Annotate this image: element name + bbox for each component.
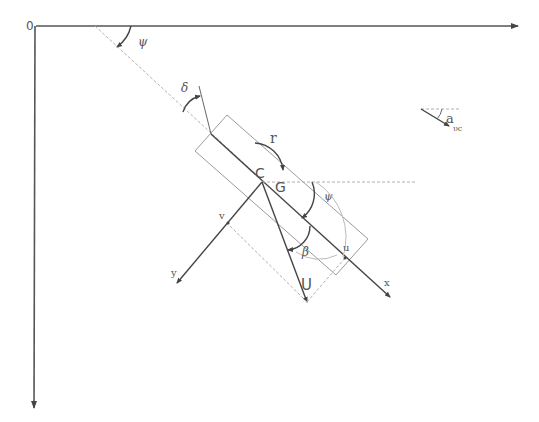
v-projection-line [228,224,307,302]
heading-angle-arc-local [302,182,314,218]
surge-velocity-label: u [343,242,350,253]
ship-kinematics-diagram: 0 ψ δ x r C G ψ y v U u β a υc [0,0,539,422]
current-velocity-vector [421,109,449,126]
u-projection-line [307,258,345,302]
total-velocity-label: U [301,276,312,294]
rudder-angle-label: δ [181,81,188,95]
rudder-line [199,86,211,134]
heading-angle-arc-top [117,26,131,47]
yaw-rate-label: r [270,130,277,146]
current-velocity-label: υc [453,124,463,133]
body-x-axis [211,134,390,297]
earth-y-axis [34,26,35,408]
body-x-axis-label: x [384,277,390,288]
current-angle-arc [437,109,442,119]
drift-angle-label: β [301,245,309,259]
body-y-axis [177,182,262,283]
sway-velocity-label: v [218,210,225,221]
gravity-center-label: G [275,179,286,195]
rudder-angle-arc [183,96,200,112]
center-point-label: C [255,165,265,181]
surge-velocity-point [344,257,347,260]
origin-label: 0 [26,19,34,33]
body-y-axis-label: y [170,267,177,278]
heading-angle-top-label: ψ [138,35,148,49]
